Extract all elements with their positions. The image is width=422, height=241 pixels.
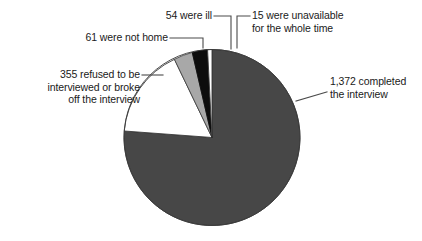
leader-line-unavailable (237, 16, 250, 48)
leader-line-ill (214, 16, 231, 49)
pie-label-not-home: 61 were not home (46, 31, 168, 44)
pie-label-unavailable: 15 were unavailable for the whole time (252, 9, 412, 34)
pie-label-completed: 1,372 completed the interview (330, 75, 422, 100)
leader-line-completed (296, 92, 327, 101)
leader-line-not-home (170, 38, 203, 48)
pie-label-ill: 54 were ill (126, 9, 212, 22)
pie-chart-figure: 54 were ill 61 were not home 355 refused… (0, 0, 422, 241)
pie-label-refused: 355 refused to be interviewed or broke o… (8, 68, 140, 106)
